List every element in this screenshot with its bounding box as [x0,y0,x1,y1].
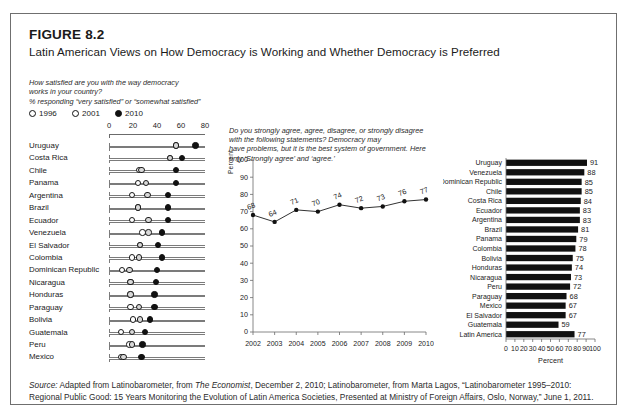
dot-2010[interactable] [159,229,165,235]
dotplot-row-label: Uruguay [29,141,59,150]
line-chart-svg: 0102030405060708090100200220032004200520… [229,154,434,366]
line-chart-data-point[interactable] [294,208,298,212]
dot-2010[interactable] [147,316,153,322]
dotplot-row[interactable]: Uruguay [29,140,219,152]
dot-2001[interactable] [135,204,141,210]
dot-1996[interactable] [130,316,136,322]
bar-chart-bar[interactable] [506,179,582,185]
dot-2001[interactable] [120,354,126,360]
dot-2001[interactable] [138,167,144,173]
dotplot-row[interactable]: Brazil [29,202,219,214]
line-chart-point-label: 64 [267,207,278,218]
dot-2010[interactable] [154,267,160,273]
bar-chart-x-tick-label: 80 [573,345,581,352]
line-chart-y-tick-label: 60 [240,224,248,233]
bar-chart-bar[interactable] [506,245,575,251]
dotplot-row-track [109,208,205,211]
dot-2001[interactable] [126,267,132,273]
dotplot-row-track [109,170,205,173]
dotplot-row[interactable]: Venezuela [29,227,219,239]
bar-chart-bar[interactable] [506,331,575,337]
bar-chart-bar[interactable] [506,169,584,175]
dot-2001[interactable] [127,291,133,297]
line-chart-data-point[interactable] [402,199,406,203]
dotplot-row[interactable]: Argentina [29,190,219,202]
dot-2001[interactable] [173,142,179,148]
line-chart-data-point[interactable] [316,209,320,213]
bar-chart-bar[interactable] [506,207,580,213]
dotplot-row[interactable]: Paraguay [29,302,219,314]
dot-2001[interactable] [129,341,135,347]
line-chart-data-point[interactable] [251,213,255,217]
bar-chart-bar[interactable] [506,293,567,299]
panel-a-legend: 1996 2001 2010 [29,109,156,118]
dot-2010[interactable] [192,142,198,148]
dotplot-row[interactable]: Dominican Republic [29,264,219,276]
bar-chart-bar[interactable] [506,198,581,204]
dot-2010[interactable] [151,291,157,297]
dot-1996[interactable] [129,254,135,260]
line-chart-x-tick-label: 2005 [310,340,326,347]
dot-2010[interactable] [139,341,145,347]
dot-2010[interactable] [165,204,171,210]
bar-chart-category-label: El Salvador [466,312,502,319]
bar-chart-bar[interactable] [506,303,566,309]
bar-chart-bar[interactable] [506,312,566,318]
dotplot-row[interactable]: Nicaragua [29,277,219,289]
bar-chart-bar[interactable] [506,264,572,270]
bar-chart-value-label: 91 [590,158,598,167]
line-chart-data-point[interactable] [272,220,276,224]
dot-2010[interactable] [159,254,165,260]
bar-chart-value-label: 72 [573,282,581,291]
dotplot-row-label: Mexico [29,352,54,361]
dot-2001[interactable] [144,192,150,198]
panel-a-axis-tickmark [109,134,110,138]
dot-1996[interactable] [127,304,133,310]
dotplot-row[interactable]: El Salvador [29,240,219,252]
dot-2001[interactable] [145,217,151,223]
bar-chart-category-label: Colombia [472,245,502,252]
dot-2010[interactable] [151,304,157,310]
bar-chart-bar[interactable] [506,160,587,166]
line-chart-y-tick-label: 0 [244,327,248,336]
bar-chart-bar[interactable] [506,274,571,280]
dotplot-row[interactable]: Costa Rica [29,152,219,164]
bar-chart-bar[interactable] [506,283,570,289]
line-chart-x-tick-label: 2010 [418,340,434,347]
bar-chart-bar[interactable] [506,188,582,194]
dotplot-row[interactable]: Ecuador [29,215,219,227]
dotplot-row[interactable]: Guatemala [29,327,219,339]
dot-1996[interactable] [135,180,141,186]
bar-chart-bar[interactable] [506,236,576,242]
dotplot-row[interactable]: Bolivia [29,314,219,326]
bar-chart-bar[interactable] [506,322,559,328]
dotplot-row[interactable]: Mexico [29,351,219,363]
dotplot-row-label: Nicaragua [29,278,65,287]
dot-2001[interactable] [145,229,151,235]
bar-chart-bar[interactable] [506,217,580,223]
dotplot-row[interactable]: Peru [29,339,219,351]
dot-2001[interactable] [137,316,143,322]
dotplot-row[interactable]: Colombia [29,252,219,264]
dotplot-row[interactable]: Chile [29,165,219,177]
figure-number: FIGURE 8.2 [29,27,105,42]
bar-chart-category-label: Nicaragua [470,274,502,282]
line-chart-data-point[interactable] [337,203,341,207]
bar-chart-bar[interactable] [506,255,573,261]
bar-chart-x-tick-label: 10 [511,345,519,352]
bar-chart-value-label: 85 [585,187,593,196]
line-chart-data-point[interactable] [424,197,428,201]
source-note: Source: Adapted from Latinobarometer, fr… [29,380,599,403]
bar-chart-bar[interactable] [506,226,578,232]
dot-2001[interactable] [136,254,142,260]
source-italic-economist: The Economist [195,380,250,390]
dotplot-row-label: El Salvador [29,241,69,250]
line-chart-data-point[interactable] [359,206,363,210]
bar-chart-x-tick-label: 20 [520,345,528,352]
dotplot-row[interactable]: Honduras [29,289,219,301]
line-chart-data-point[interactable] [381,204,385,208]
dotplot-row[interactable]: Panama [29,177,219,189]
dot-2010[interactable] [138,354,144,360]
dot-2001[interactable] [129,329,135,335]
legend-label-2001: 2001 [82,109,100,118]
